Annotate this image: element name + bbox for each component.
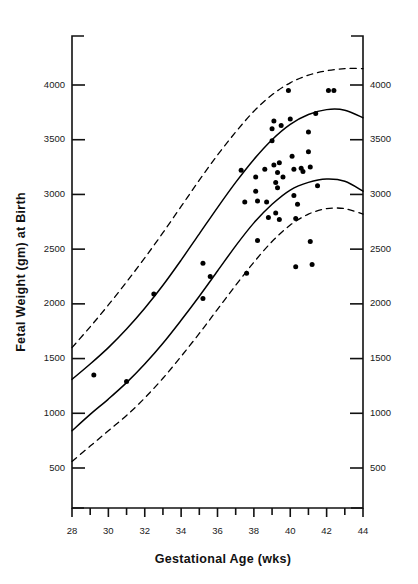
x-axis-title: Gestational Age (wks) — [155, 552, 291, 566]
scatter-point — [290, 154, 295, 159]
x-tick-label: 30 — [103, 525, 114, 536]
scatter-point — [253, 174, 258, 179]
scatter-point — [91, 372, 96, 377]
scatter-point — [208, 274, 213, 279]
scatter-point — [264, 200, 269, 205]
fetal-growth-chart: 5001000150020002500300035004000 50010001… — [0, 0, 418, 584]
scatter-point — [279, 123, 284, 128]
y-tick-label-right: 1500 — [370, 352, 391, 363]
y-tick-label-right: 3000 — [370, 188, 391, 199]
scatter-point — [291, 167, 296, 172]
scatter-point — [286, 88, 291, 93]
scatter-point — [293, 264, 298, 269]
scatter-point — [277, 160, 282, 165]
y-tick-label-left: 500 — [49, 462, 65, 473]
scatter-point — [244, 271, 249, 276]
scatter-point — [255, 238, 260, 243]
scatter-point — [326, 88, 331, 93]
x-tick-label: 44 — [358, 525, 369, 536]
y-tick-label-left: 4000 — [44, 79, 65, 90]
y-tick-label-left: 3000 — [44, 188, 65, 199]
scatter-point — [271, 162, 276, 167]
y-tick-label-left: 2000 — [44, 297, 65, 308]
y-tick-label-right: 2000 — [370, 297, 391, 308]
scatter-point — [273, 211, 278, 216]
scatter-point — [242, 200, 247, 205]
scatter-point — [280, 174, 285, 179]
scatter-point — [275, 185, 280, 190]
y-tick-label-right: 4000 — [370, 79, 391, 90]
y-tick-label-left: 2500 — [44, 243, 65, 254]
x-tick-label: 36 — [212, 525, 223, 536]
x-tick-label: 38 — [249, 525, 260, 536]
scatter-point — [262, 167, 267, 172]
scatter-point — [315, 183, 320, 188]
x-tick-label: 28 — [67, 525, 78, 536]
scatter-point — [253, 189, 258, 194]
scatter-point — [288, 116, 293, 121]
scatter-point — [310, 262, 315, 267]
y-tick-label-right: 500 — [370, 462, 386, 473]
y-tick-label-right: 3500 — [370, 133, 391, 144]
y-tick-label-right: 2500 — [370, 243, 391, 254]
x-axis-tick-labels: 283032343638404244 — [67, 525, 369, 536]
scatter-point — [270, 126, 275, 131]
x-tick-label: 40 — [285, 525, 296, 536]
y-tick-label-left: 1500 — [44, 352, 65, 363]
scatter-point — [124, 379, 129, 384]
scatter-point — [295, 202, 300, 207]
y-tick-label-right: 1000 — [370, 407, 391, 418]
scatter-point — [306, 130, 311, 135]
scatter-point — [271, 119, 276, 124]
scatter-point — [277, 217, 282, 222]
scatter-point — [200, 261, 205, 266]
y-tick-label-left: 3500 — [44, 133, 65, 144]
scatter-point — [273, 180, 278, 185]
scatter-point — [308, 165, 313, 170]
scatter-point — [266, 215, 271, 220]
scatter-point — [275, 170, 280, 175]
scatter-point — [293, 216, 298, 221]
x-tick-label: 34 — [176, 525, 187, 536]
scatter-point — [313, 111, 318, 116]
scatter-point — [331, 88, 336, 93]
scatter-point — [255, 198, 260, 203]
scatter-point — [151, 292, 156, 297]
scatter-point — [300, 169, 305, 174]
y-axis-title: Fetal Weight (gm) at Birth — [14, 192, 28, 352]
scatter-point — [291, 193, 296, 198]
scatter-point — [239, 168, 244, 173]
scatter-point — [200, 296, 205, 301]
scatter-point — [270, 138, 275, 143]
y-tick-label-left: 1000 — [44, 407, 65, 418]
x-tick-label: 42 — [321, 525, 332, 536]
scatter-point — [308, 239, 313, 244]
x-tick-label: 32 — [139, 525, 150, 536]
scatter-point — [306, 149, 311, 154]
